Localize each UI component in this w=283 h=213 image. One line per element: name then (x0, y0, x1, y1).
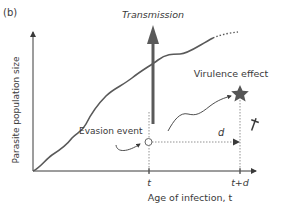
population-curve (33, 38, 213, 171)
transmission-arrow-head (147, 25, 159, 44)
panel-label: (b) (3, 7, 17, 18)
y-axis-label: Parasite population size (11, 56, 21, 164)
virulence-effect-label: Virulence effect (194, 68, 269, 79)
evasion-event-marker (145, 139, 152, 146)
death-cross-icon (248, 117, 260, 132)
delay-arrow-head (233, 139, 240, 146)
virulence-pointer-arrow (168, 96, 231, 131)
xtick-t: t (147, 177, 152, 188)
delay-label: d (218, 127, 225, 138)
transmission-label: Transmission (122, 9, 184, 20)
xtick-td: t+d (231, 177, 250, 188)
evasion-event-label: Evasion event (79, 126, 143, 136)
x-axis-label: Age of infection, t (148, 192, 233, 203)
population-curve-extension (213, 32, 238, 38)
evasion-pointer-arrow (116, 144, 140, 151)
virulence-star-icon (231, 85, 249, 102)
diagram-canvas: (b) Parasite population size Transmissio… (0, 0, 283, 213)
